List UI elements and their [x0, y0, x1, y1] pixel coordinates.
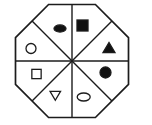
filled-ellipse-shape	[54, 25, 66, 32]
outlined-square-shape	[32, 69, 41, 78]
figure-canvas	[0, 0, 152, 125]
filled-circle-shape	[100, 67, 111, 78]
outlined-ellipse-shape	[77, 93, 90, 101]
outlined-circle-shape	[26, 44, 36, 54]
octagon-puzzle-figure	[0, 0, 152, 125]
filled-square-shape	[77, 20, 88, 31]
